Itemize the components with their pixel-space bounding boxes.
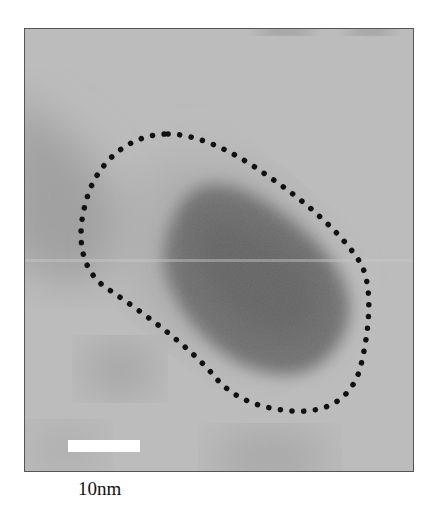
- micrograph-canvas: [25, 29, 414, 472]
- scale-bar: [68, 440, 140, 452]
- micrograph-image: [24, 28, 414, 472]
- scale-bar-label: 10nm: [78, 478, 121, 500]
